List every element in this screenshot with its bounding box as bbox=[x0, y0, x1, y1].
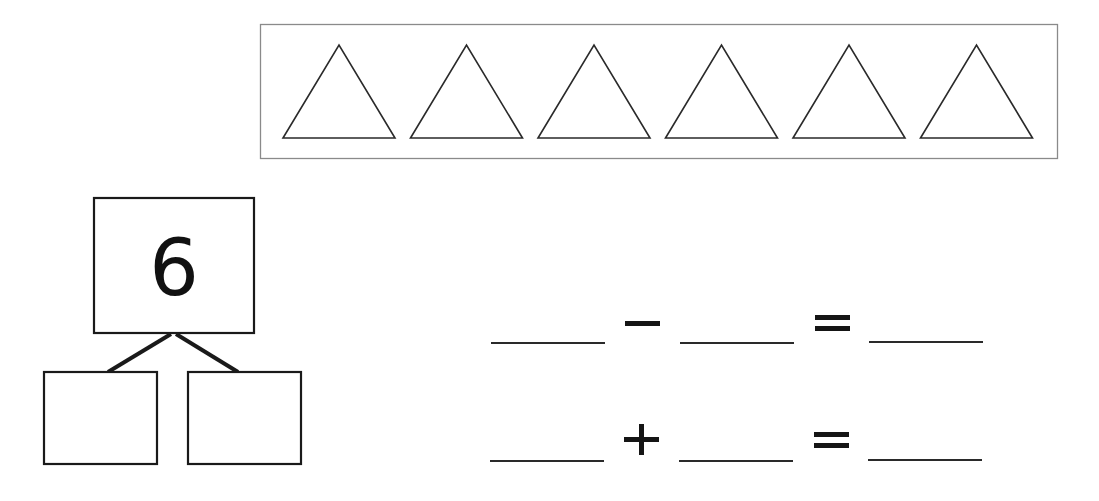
bond-connector-right bbox=[176, 334, 238, 372]
bond-part-left-value[interactable] bbox=[44, 372, 157, 464]
plus-sign-icon-vertical bbox=[639, 424, 644, 455]
blank-second[interactable] bbox=[680, 342, 794, 344]
bond-part-right-value[interactable] bbox=[188, 372, 301, 464]
blank-result-value[interactable] bbox=[869, 299, 983, 339]
blank-first-value[interactable] bbox=[491, 300, 605, 340]
equals-sign-icon bbox=[815, 315, 850, 320]
blank-second-value[interactable] bbox=[679, 418, 793, 458]
blank-result-value[interactable] bbox=[868, 417, 982, 457]
blank-first[interactable] bbox=[491, 342, 605, 344]
triangle-row bbox=[283, 45, 1033, 138]
blank-first-value[interactable] bbox=[490, 418, 604, 458]
triangle-icon bbox=[411, 45, 523, 138]
blank-second-value[interactable] bbox=[680, 300, 794, 340]
minus-sign-icon bbox=[625, 321, 660, 326]
equals-sign-icon-lower bbox=[815, 326, 850, 331]
blank-result[interactable] bbox=[869, 341, 983, 343]
triangle-icon bbox=[793, 45, 905, 138]
triangle-icon bbox=[921, 45, 1033, 138]
bond-whole-value: 6 bbox=[94, 198, 254, 333]
equals-sign-icon bbox=[814, 432, 849, 437]
equals-sign-icon-lower bbox=[814, 443, 849, 448]
triangle-icon bbox=[538, 45, 650, 138]
blank-second[interactable] bbox=[679, 460, 793, 462]
triangle-icon bbox=[283, 45, 395, 138]
blank-result[interactable] bbox=[868, 459, 982, 461]
blank-first[interactable] bbox=[490, 460, 604, 462]
triangle-icon bbox=[666, 45, 778, 138]
bond-connector-left bbox=[108, 334, 171, 372]
